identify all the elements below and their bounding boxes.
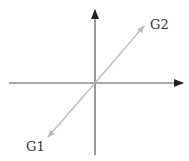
vector-g2 bbox=[95, 26, 144, 83]
label-g1: G1 bbox=[26, 139, 45, 154]
label-g2: G2 bbox=[150, 17, 169, 32]
vector-g1 bbox=[48, 83, 95, 137]
vector-diagram: G1 G2 bbox=[0, 0, 189, 161]
